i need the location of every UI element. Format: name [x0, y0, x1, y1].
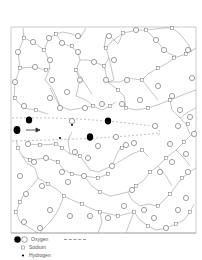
- legend-item-hydrogen: Hydrogen: [20, 252, 51, 259]
- oxygen-atoms: [12, 27, 196, 230]
- network-diagram: [0, 0, 202, 260]
- legend-label-sodium: Sodium: [29, 244, 46, 251]
- network-bonds: [14, 28, 196, 233]
- legend-item-oxygen: Oxygen: [14, 236, 48, 243]
- hydrogen-legend-icon: [20, 252, 26, 259]
- sodium-legend-icon: [20, 244, 26, 251]
- legend-dashed-line: [64, 239, 86, 240]
- oxygen-legend-icon: [14, 236, 28, 243]
- legend-label-hydrogen: Hydrogen: [29, 252, 51, 259]
- legend-label-oxygen: Oxygen: [31, 236, 48, 243]
- legend-item-sodium: Sodium: [20, 244, 46, 251]
- arrow-right-icon: [26, 128, 40, 132]
- diffusion-path: [12, 118, 160, 141]
- sodium-atoms: [14, 27, 192, 228]
- legend: Oxygen Sodium Hydrogen: [14, 236, 134, 260]
